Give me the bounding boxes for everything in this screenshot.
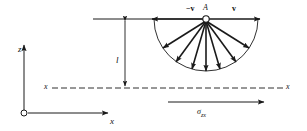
origin-marker (21, 110, 27, 116)
source-point-marker (203, 16, 209, 22)
velocity-fan (152, 16, 260, 71)
reference-line-left-label: x (44, 83, 48, 91)
reference-line-right-label: x (286, 83, 290, 91)
stress-subscript: zx (201, 112, 206, 118)
z-axis-label: z (18, 45, 22, 54)
diagram-canvas (0, 0, 307, 131)
fan-arrow-2 (176, 21, 206, 62)
dimension-label-l: l (116, 56, 119, 65)
stress-label: σzx (197, 108, 206, 118)
coordinate-axes (21, 45, 108, 116)
velocity-label-negative: −v (186, 5, 195, 13)
source-point-label: A (203, 4, 208, 12)
x-axis-label: x (110, 117, 114, 126)
velocity-label-positive: v (232, 5, 236, 13)
fan-arrow-6 (206, 21, 236, 62)
physics-diagram: z x l x x A −v v σzx (0, 0, 307, 131)
